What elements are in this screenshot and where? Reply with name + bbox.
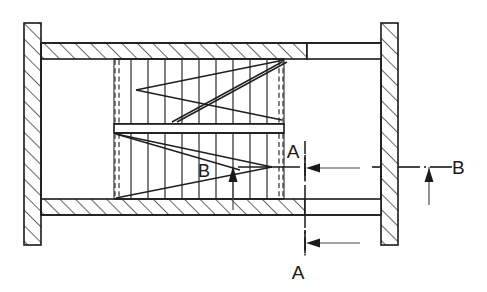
top-wall-hatched (41, 43, 307, 59)
bottom-wall-plain-segment (305, 199, 381, 215)
section-label-a-bottom: A (292, 262, 305, 283)
right-flange (381, 23, 398, 245)
top-wall-plain-segment (307, 43, 381, 59)
bottom-wall-hatched (41, 199, 305, 215)
detail-label-b: B (198, 161, 210, 181)
left-flange (24, 23, 41, 245)
cross-section-drawing: A A B B (0, 0, 487, 292)
section-label-b-right: B (452, 157, 465, 178)
technical-drawing-canvas: A A B B (0, 0, 487, 292)
section-label-a-top: A (287, 141, 300, 162)
center-divider-bar (114, 124, 284, 133)
